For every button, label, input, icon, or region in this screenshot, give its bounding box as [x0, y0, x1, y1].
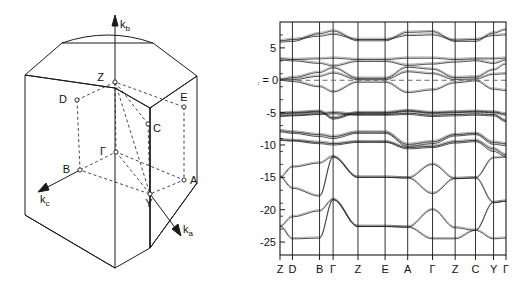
band-curve: [280, 157, 506, 179]
x-tick-label: C: [472, 263, 480, 275]
x-tick-label: B: [316, 263, 323, 275]
x-tick-label: Z: [355, 263, 362, 275]
brillouin-zone-diagram: Z D E C Γ B A Y kb kc ka: [0, 0, 258, 285]
fermi-level-label: EF = 0: [258, 74, 278, 89]
band-curve: [280, 156, 506, 201]
y-tick-label: -5: [266, 107, 276, 119]
axis-kc-arrowhead: [38, 183, 49, 192]
bz-face-front: [25, 75, 150, 268]
bz-point-marker-D: [75, 98, 79, 102]
bz-label-A: A: [190, 174, 198, 186]
plot-vertical-gridlines: [292, 22, 493, 255]
bz-point-marker-E: [182, 105, 186, 109]
bz-hidden-top-ring-2: [115, 82, 148, 124]
x-tick-label: Y: [490, 263, 498, 275]
y-axis-tick-labels: 5-5-10-15-20-25: [260, 42, 276, 248]
bz-edge-front-bottom: [25, 215, 115, 268]
band-curve: [280, 114, 506, 122]
band-curve: [280, 200, 506, 239]
y-tick-label: -20: [260, 204, 276, 216]
axis-kb-arrowhead: [112, 15, 118, 26]
x-tick-label: Γ: [503, 263, 509, 275]
axis-label-kb: kb: [120, 18, 131, 33]
bz-label-Z: Z: [97, 71, 104, 83]
x-tick-label: Γ: [430, 263, 436, 275]
bz-label-B: B: [63, 163, 70, 175]
x-axis-ticks: [280, 255, 506, 260]
bz-face-top: [25, 43, 197, 108]
bz-hidden-top-ring: [77, 82, 184, 107]
bz-label-Y: Y: [145, 197, 153, 209]
y-tick-label: 5: [270, 42, 276, 54]
brillouin-zone-panel: Z D E C Γ B A Y kb kc ka: [0, 0, 258, 285]
figure-root: Z D E C Γ B A Y kb kc ka 5-5-10-15-20-25: [0, 0, 530, 285]
x-tick-label: D: [288, 263, 296, 275]
y-axis-ticks: [280, 48, 285, 242]
axis-ka-line: [150, 194, 176, 229]
bz-hidden-diag-2: [115, 82, 150, 194]
band-curve: [280, 157, 506, 202]
x-tick-label: Z: [277, 263, 284, 275]
band-curve: [280, 80, 506, 92]
bz-point-marker-Gamma: [114, 150, 118, 154]
x-tick-label: A: [404, 263, 412, 275]
band-curve: [280, 155, 506, 177]
band-curve: [280, 57, 506, 58]
bz-hidden-v-D: [77, 100, 80, 170]
bz-label-D: D: [59, 93, 67, 105]
bz-label-C: C: [153, 122, 161, 134]
bz-point-marker-Y: [148, 192, 152, 196]
bz-point-marker-C: [146, 122, 150, 126]
plot-frame: [280, 22, 506, 255]
x-tick-label: Γ: [330, 263, 336, 275]
axis-label-kc: kc: [40, 193, 50, 208]
y-tick-label: -25: [260, 236, 276, 248]
x-tick-label: E: [381, 263, 388, 275]
x-axis-tick-labels: ZDBΓZEAΓZCYΓ: [277, 263, 509, 275]
band-curve: [280, 199, 506, 230]
bz-edge-back-top: [62, 35, 153, 43]
bz-hidden-mid-ring: [80, 152, 184, 194]
band-curve: [280, 58, 506, 59]
band-structure-plot: 5-5-10-15-20-25 ZDBΓZEAΓZCYΓ EF = 0: [258, 0, 530, 285]
bz-face-right: [150, 76, 197, 248]
band-curve: [280, 199, 506, 238]
y-tick-label: -10: [260, 139, 276, 151]
band-curve: [280, 198, 506, 229]
bz-point-marker-Z: [113, 80, 117, 84]
axis-label-ka: ka: [183, 223, 194, 238]
bz-point-marker-A: [182, 178, 186, 182]
y-tick-label: -15: [260, 171, 276, 183]
band-structure-panel: 5-5-10-15-20-25 ZDBΓZEAΓZCYΓ EF = 0: [258, 0, 530, 285]
x-tick-label: Z: [452, 263, 459, 275]
bz-edge-front-right: [150, 183, 197, 248]
band-curve: [280, 59, 506, 65]
bz-hidden-diag-1: [116, 152, 150, 194]
bz-label-E: E: [180, 91, 187, 103]
band-curves-group: [280, 28, 506, 238]
bz-point-marker-B: [78, 168, 82, 172]
bz-label-Gamma: Γ: [100, 145, 106, 157]
